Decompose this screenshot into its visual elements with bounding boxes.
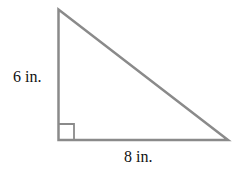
horizontal-leg-label: 8 in. [124,148,152,165]
right-triangle-diagram: 6 in. 8 in. [0,0,240,170]
right-angle-marker [59,124,75,140]
triangle [59,10,229,141]
vertical-leg-label: 6 in. [13,68,41,85]
